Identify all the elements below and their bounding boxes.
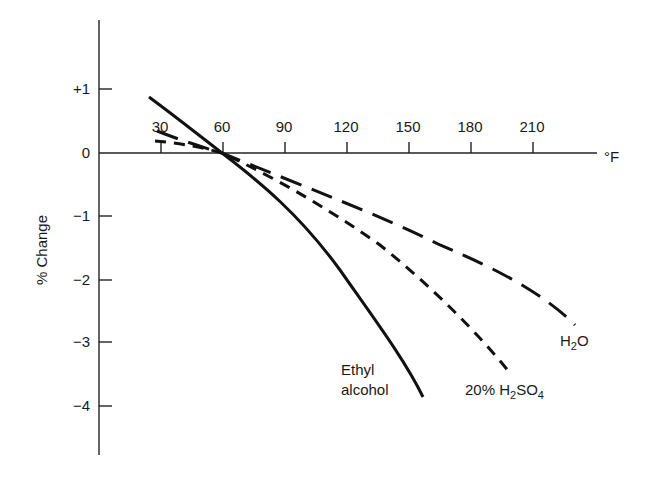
x-tick-labels: 30 60 90 120 150 180 210 xyxy=(152,118,545,135)
svg-text:−3: −3 xyxy=(73,333,90,350)
y-ticks xyxy=(99,89,112,406)
svg-text:−1: −1 xyxy=(73,207,90,224)
chart: +1 0 −1 −2 −3 −4 % Change 30 60 90 120 1… xyxy=(0,0,651,480)
svg-text:alcohol: alcohol xyxy=(341,381,389,398)
svg-text:0: 0 xyxy=(82,144,90,161)
h2o-label: H2O xyxy=(560,332,589,352)
svg-text:180: 180 xyxy=(457,118,482,135)
svg-text:−2: −2 xyxy=(73,271,90,288)
svg-text:210: 210 xyxy=(519,118,544,135)
ethyl-alcohol-label: Ethyl alcohol xyxy=(341,361,389,398)
h2o-curve xyxy=(157,131,575,325)
h2so4-curve xyxy=(155,141,509,372)
x-axis-unit: °F xyxy=(604,148,619,165)
y-tick-labels: +1 0 −1 −2 −3 −4 xyxy=(73,80,90,414)
svg-text:−4: −4 xyxy=(73,397,90,414)
svg-text:120: 120 xyxy=(333,118,358,135)
svg-text:+1: +1 xyxy=(73,80,90,97)
svg-text:60: 60 xyxy=(214,118,231,135)
y-axis-label: % Change xyxy=(33,215,50,285)
svg-text:150: 150 xyxy=(395,118,420,135)
svg-text:90: 90 xyxy=(276,118,293,135)
svg-text:Ethyl: Ethyl xyxy=(341,361,374,378)
h2so4-label: 20% H2SO4 xyxy=(465,381,544,401)
